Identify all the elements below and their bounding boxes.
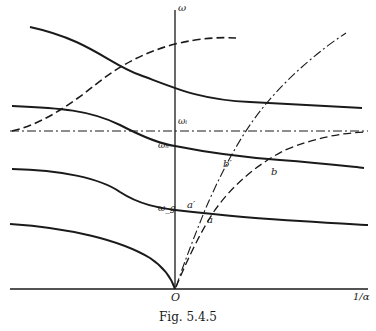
solid-branch-3 <box>12 169 368 225</box>
omega-i-label: ωᵢ <box>178 116 187 126</box>
point-b-label: b <box>271 166 277 177</box>
omega-g-label: ω_g <box>158 203 176 213</box>
dash-dot-line <box>176 33 346 287</box>
omega-axis-label: ω <box>178 2 186 13</box>
point-a-label: a <box>207 214 213 225</box>
point-b-prime-label: b′ <box>223 158 232 169</box>
figure-caption: Fig. 5.4.5 <box>0 310 376 324</box>
dispersion-diagram <box>0 0 376 331</box>
point-a-prime-label: a′ <box>187 199 195 210</box>
solid-branch-2 <box>12 106 364 168</box>
dashed-curve-upper <box>12 38 236 131</box>
inv-alpha-axis-label: 1/α <box>353 291 369 302</box>
omega-h-label: ωₕ <box>158 140 169 150</box>
solid-branch-4 <box>10 224 175 289</box>
dashed-curve-lower <box>176 132 366 287</box>
origin-label: O <box>171 291 180 304</box>
